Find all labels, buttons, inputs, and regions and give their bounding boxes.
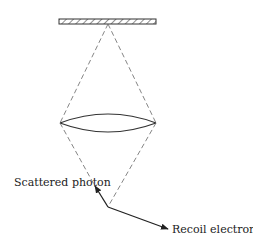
recoil-electron-arrow (108, 207, 168, 229)
hatched-plate (59, 19, 156, 24)
recoil-electron-label: Recoil electron (172, 223, 253, 236)
scattered-photon-arrow (95, 186, 108, 207)
compton-diagram: Scattered photon Recoil electron (0, 0, 253, 244)
lens (60, 114, 156, 132)
scattered-photon-label: Scattered photon (14, 176, 111, 189)
upper-cone-rays (60, 24, 156, 123)
lower-cone-rays (60, 123, 156, 205)
